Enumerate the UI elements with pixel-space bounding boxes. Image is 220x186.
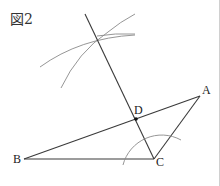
- side-BA: [24, 96, 200, 159]
- bisector-line: [85, 14, 154, 159]
- construction-arc-1: [40, 35, 135, 67]
- construction-arc-2: [61, 14, 135, 88]
- point-C-label: C: [156, 155, 164, 170]
- point-B-label: B: [13, 152, 21, 167]
- geometry-diagram: [0, 0, 220, 186]
- figure-2: 図2 A B C D: [0, 0, 220, 186]
- arc-at-C: [123, 135, 181, 165]
- side-CA: [154, 96, 200, 159]
- point-A-label: A: [202, 83, 211, 98]
- point-D-label: D: [134, 103, 143, 118]
